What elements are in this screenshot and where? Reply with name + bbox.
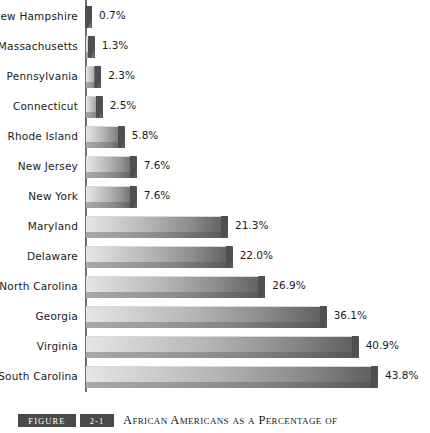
- bar-row: Rhode Island5.8%: [0, 123, 430, 153]
- bar-value-label: 7.6%: [144, 189, 171, 201]
- bar: [86, 156, 137, 179]
- bar-category-label: New York: [0, 190, 78, 202]
- bar: [86, 66, 101, 89]
- bar-value-label: 2.3%: [108, 69, 135, 81]
- bar-bevel: [86, 352, 359, 358]
- bar-value-label: 1.3%: [102, 39, 129, 51]
- bar-bevel: [86, 382, 378, 388]
- bar: [86, 306, 327, 329]
- bar-bevel: [86, 172, 137, 178]
- bar-row: Virginia40.9%: [0, 333, 430, 363]
- bar-value-label: 43.8%: [385, 369, 418, 381]
- bar-face: [86, 336, 359, 353]
- bar-face: [86, 156, 137, 173]
- bar-row: South Carolina43.8%: [0, 363, 430, 393]
- bar-bevel: [86, 322, 327, 328]
- bar-category-label: South Carolina: [0, 370, 78, 382]
- bar-face: [86, 366, 378, 383]
- bar: [86, 6, 92, 29]
- bar-row: Georgia36.1%: [0, 303, 430, 333]
- bar: [86, 96, 103, 119]
- bar-row: Connecticut2.5%: [0, 93, 430, 123]
- bar-row: Massachusetts1.3%: [0, 33, 430, 63]
- bar-category-label: Georgia: [0, 310, 78, 322]
- bar-face: [86, 276, 265, 293]
- bar-row: Maryland21.3%: [0, 213, 430, 243]
- bar-bevel: [86, 262, 233, 268]
- bar: [86, 216, 228, 239]
- bar-bevel: [86, 202, 137, 208]
- bar-category-label: Virginia: [0, 340, 78, 352]
- bar-value-label: 21.3%: [235, 219, 268, 231]
- bar-category-label: New Hampshire: [0, 10, 78, 22]
- bar-category-label: Maryland: [0, 220, 78, 232]
- bar-row: Delaware22.0%: [0, 243, 430, 273]
- bar-row: North Carolina26.9%: [0, 273, 430, 303]
- bar-value-label: 36.1%: [334, 309, 367, 321]
- bar-category-label: Rhode Island: [0, 130, 78, 142]
- bar-value-label: 5.8%: [132, 129, 159, 141]
- bar-value-label: 40.9%: [366, 339, 399, 351]
- bar: [86, 126, 125, 149]
- bar-value-label: 26.9%: [272, 279, 305, 291]
- bar-value-label: 2.5%: [110, 99, 137, 111]
- bar-face: [86, 306, 327, 323]
- bar: [86, 276, 265, 299]
- bar-category-label: New Jersey: [0, 160, 78, 172]
- bar-category-label: Connecticut: [0, 100, 78, 112]
- caption-figure-label: Figure: [18, 414, 76, 428]
- bar-chart-plot-area: New Hampshire0.7%Massachusetts1.3%Pennsy…: [0, 0, 430, 394]
- bar-row: New Jersey7.6%: [0, 153, 430, 183]
- bar-value-label: 7.6%: [144, 159, 171, 171]
- bar-value-label: 22.0%: [240, 249, 273, 261]
- bar: [86, 36, 95, 59]
- figure-caption: Figure 2-1 African Americans as a Percen…: [0, 408, 430, 433]
- bar-value-label: 0.7%: [99, 9, 126, 21]
- caption-title-text: African Americans as a Percentage of: [123, 413, 337, 428]
- bar: [86, 246, 233, 269]
- caption-figure-number: 2-1: [80, 414, 114, 428]
- bar-bevel: [86, 292, 265, 298]
- bar-face: [86, 246, 233, 263]
- bar-category-label: North Carolina: [0, 280, 78, 292]
- bar: [86, 336, 359, 359]
- bar-face: [86, 216, 228, 233]
- bar-category-label: Massachusetts: [0, 40, 78, 52]
- bar-bevel: [86, 232, 228, 238]
- bar-face: [86, 186, 137, 203]
- bar-row: New York7.6%: [0, 183, 430, 213]
- bar-row: Pennsylvania2.3%: [0, 63, 430, 93]
- bar-category-label: Pennsylvania: [0, 70, 78, 82]
- bar: [86, 366, 378, 389]
- bar-category-label: Delaware: [0, 250, 78, 262]
- figure-container: New Hampshire0.7%Massachusetts1.3%Pennsy…: [0, 0, 430, 433]
- bar-row: New Hampshire0.7%: [0, 3, 430, 33]
- bar: [86, 186, 137, 209]
